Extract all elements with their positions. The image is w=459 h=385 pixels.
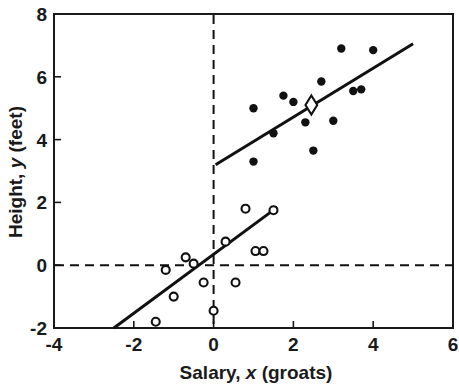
data-point-open xyxy=(182,253,190,261)
x-tick-label: 4 xyxy=(368,334,379,355)
data-point-filled xyxy=(369,46,377,54)
x-axis-title: Salary, x (groats) xyxy=(180,362,333,383)
data-point-filled xyxy=(357,85,365,93)
data-point-filled xyxy=(317,77,325,85)
x-tick-label: 0 xyxy=(208,334,219,355)
data-point-open xyxy=(210,307,218,315)
data-point-filled xyxy=(301,118,309,126)
x-tick-label: 2 xyxy=(288,334,299,355)
y-tick-label: 4 xyxy=(36,130,47,151)
fit-lines-group xyxy=(114,44,413,328)
y-axis-title: Height, y (feet) xyxy=(5,106,26,238)
data-point-filled xyxy=(337,44,345,52)
y-tick-label: 0 xyxy=(36,255,47,276)
plot-frame xyxy=(54,14,453,328)
plot-canvas: -4-20246 -202468 Salary, x (groats) Heig… xyxy=(0,0,459,385)
data-point-open xyxy=(251,247,259,255)
data-point-open xyxy=(269,206,277,214)
axis-frame-group xyxy=(54,14,453,328)
data-point-open xyxy=(242,205,250,213)
data-point-filled xyxy=(309,146,317,154)
data-point-open xyxy=(259,247,267,255)
data-point-diamond xyxy=(305,96,317,115)
y-tick-label: 8 xyxy=(36,4,47,25)
data-point-open xyxy=(222,238,230,246)
data-point-open xyxy=(232,278,240,286)
data-point-filled xyxy=(249,157,257,165)
data-point-open xyxy=(190,260,198,268)
data-point-open xyxy=(162,266,170,274)
data-point-filled xyxy=(349,87,357,95)
data-point-filled xyxy=(249,104,257,112)
x-tick-label: 6 xyxy=(448,334,459,355)
series-highlighted-diamond xyxy=(305,96,317,115)
data-point-filled xyxy=(269,129,277,137)
data-point-filled xyxy=(289,98,297,106)
scatter-plot-figure: -4-20246 -202468 Salary, x (groats) Heig… xyxy=(0,0,459,385)
y-tick-labels-group: -202468 xyxy=(30,4,47,339)
data-point-filled xyxy=(279,91,287,99)
y-tick-label: 6 xyxy=(36,67,47,88)
data-point-open xyxy=(170,293,178,301)
data-point-open xyxy=(200,278,208,286)
data-point-filled xyxy=(329,117,337,125)
y-tick-label: 2 xyxy=(36,192,47,213)
data-point-open xyxy=(152,318,160,326)
x-tick-labels-group: -4-20246 xyxy=(46,334,459,355)
x-tick-label: -4 xyxy=(46,334,63,355)
y-tick-label: -2 xyxy=(30,318,47,339)
x-tick-label: -2 xyxy=(125,334,142,355)
reference-lines-group xyxy=(55,15,452,327)
